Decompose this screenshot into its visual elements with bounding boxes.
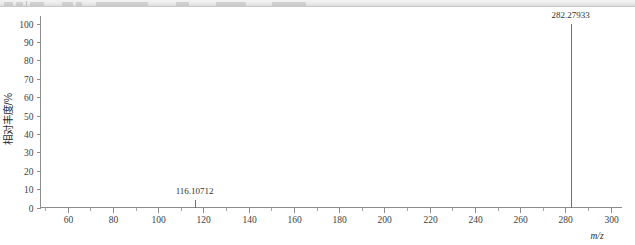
x-tick-label: 180 bbox=[332, 215, 347, 225]
toolbar-separator bbox=[26, 1, 27, 6]
toolbar-group-far-right[interactable] bbox=[272, 0, 306, 6]
y-tick-label: 80 bbox=[24, 56, 34, 66]
y-tick-label: 70 bbox=[24, 75, 34, 85]
x-tick-label: 220 bbox=[423, 215, 438, 225]
x-tick-label: 280 bbox=[558, 215, 573, 225]
peak-annotation-label: 116.10712 bbox=[176, 186, 214, 196]
cropped-toolbar-strip[interactable] bbox=[0, 0, 635, 7]
y-tick-label: 30 bbox=[24, 148, 34, 158]
y-tick-label: 20 bbox=[24, 167, 34, 177]
x-axis-ticks: 6080100120140160180200220240260280300 bbox=[64, 208, 619, 225]
toolbar-icon-ghost[interactable] bbox=[16, 2, 23, 6]
x-tick-label: 160 bbox=[287, 215, 302, 225]
toolbar-group-center[interactable] bbox=[96, 0, 148, 6]
y-tick-label: 100 bbox=[19, 20, 34, 30]
y-axis-title: 相对丰度/% bbox=[2, 93, 14, 145]
toolbar-group-mid-left[interactable] bbox=[62, 0, 82, 6]
x-tick-label: 240 bbox=[468, 215, 483, 225]
peak-annotation-label: 282.27933 bbox=[551, 10, 590, 20]
x-tick-label: 140 bbox=[242, 215, 257, 225]
y-tick-label: 10 bbox=[24, 185, 34, 195]
x-tick-label: 60 bbox=[64, 215, 74, 225]
toolbar-field-ghost[interactable] bbox=[216, 2, 246, 6]
y-tick-label: 50 bbox=[24, 112, 34, 122]
toolbar-icon-ghost[interactable] bbox=[62, 2, 73, 6]
y-axis-ticks: 0102030405060708090100 bbox=[19, 20, 40, 214]
toolbar-icon-ghost[interactable] bbox=[4, 2, 13, 6]
y-tick-label: 60 bbox=[24, 93, 34, 103]
toolbar-icon-ghost[interactable] bbox=[176, 2, 189, 6]
toolbar-group-right[interactable] bbox=[216, 0, 246, 6]
toolbar-icon-ghost[interactable] bbox=[30, 2, 44, 6]
toolbar-field-ghost[interactable] bbox=[96, 2, 148, 6]
y-tick-label: 40 bbox=[24, 130, 34, 140]
y-tick-label: 0 bbox=[29, 204, 34, 214]
peak-annotations: 116.10712282.27933 bbox=[176, 10, 591, 197]
toolbar-field-ghost[interactable] bbox=[272, 2, 306, 6]
x-tick-label: 260 bbox=[513, 215, 528, 225]
peak-series bbox=[196, 24, 572, 208]
toolbar-group-left[interactable] bbox=[4, 0, 44, 6]
x-tick-label: 300 bbox=[604, 215, 619, 225]
toolbar-group-mid-right[interactable] bbox=[176, 0, 189, 6]
y-tick-label: 90 bbox=[24, 38, 34, 48]
toolbar-icon-ghost[interactable] bbox=[76, 2, 82, 6]
x-axis-title: m/z bbox=[590, 231, 604, 241]
x-tick-label: 80 bbox=[109, 215, 119, 225]
x-tick-label: 100 bbox=[151, 215, 166, 225]
x-tick-label: 200 bbox=[377, 215, 392, 225]
mass-spectrum-plot: 相对丰度/% 0102030405060708090100 6080100120… bbox=[0, 7, 635, 245]
x-tick-label: 120 bbox=[196, 215, 211, 225]
mass-spectrum-chart: 相对丰度/% 0102030405060708090100 6080100120… bbox=[0, 7, 635, 245]
